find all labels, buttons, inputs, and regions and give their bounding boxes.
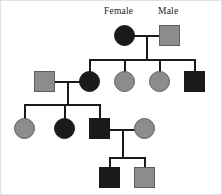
gen3-child3-male [89,118,110,139]
gen3-child2-female [54,118,75,139]
gen2-spouse-male [34,71,55,92]
gen3-drop-child2 [64,104,66,119]
gen1-female [114,25,135,46]
gen3-drop-child3 [99,104,101,119]
gen3-sibship-line [24,104,100,106]
gen3-descent-line [122,129,124,158]
gen2-descent-line [67,81,69,105]
gen3-child1-female [14,118,35,139]
gen2-child3-female [149,71,170,92]
gen2-sibship-line [89,59,195,61]
gen4-child1-male [99,167,120,188]
gen4-child2-male [134,167,155,188]
male-label: Male [158,7,178,17]
gen1-descent-line [146,35,148,59]
gen3-drop-child1 [24,104,26,119]
gen2-child4-male [184,71,205,92]
gen1-male [159,25,180,46]
female-label: Female [104,7,133,17]
gen2-child1-female [79,71,100,92]
gen3-spouse-female [134,118,155,139]
gen2-child2-female [114,71,135,92]
pedigree-chart: FemaleMale [0,0,222,195]
gen4-sibship-line [109,157,145,159]
